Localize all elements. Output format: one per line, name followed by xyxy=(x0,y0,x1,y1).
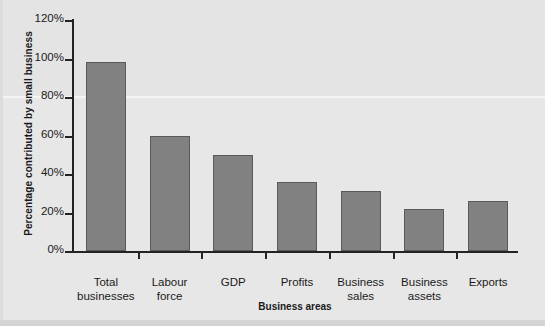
y-tick-mark xyxy=(65,59,74,61)
y-tick-mark xyxy=(65,251,74,253)
y-tick-mark xyxy=(65,213,74,215)
x-axis-category-label: Profits xyxy=(265,275,329,289)
x-axis-category-label: Business sales xyxy=(329,275,393,303)
y-tick-mark xyxy=(65,97,74,99)
x-tick-mark xyxy=(393,251,395,259)
x-axis-category-label: Exports xyxy=(456,275,520,289)
y-tick-label: 20% xyxy=(41,205,64,217)
bar xyxy=(468,201,508,251)
x-axis-category-label: Business assets xyxy=(393,275,457,303)
x-tick-mark xyxy=(265,251,267,259)
y-tick-label: 100% xyxy=(35,51,64,63)
x-tick-mark xyxy=(456,251,458,259)
chart-screenshot: Percentage contributed by small business… xyxy=(0,0,545,326)
x-axis-category-label: Total businesses xyxy=(74,275,138,303)
x-axis-category-label: Labour force xyxy=(138,275,202,303)
bar xyxy=(341,191,381,251)
x-axis-category-label: GDP xyxy=(201,275,265,289)
y-tick-mark xyxy=(65,136,74,138)
x-tick-mark xyxy=(138,251,140,259)
y-tick-label: 40% xyxy=(41,166,64,178)
page-bottom-edge xyxy=(0,320,545,326)
bar xyxy=(86,62,126,251)
y-axis-title: Percentage contributed by small business xyxy=(23,14,34,254)
bar xyxy=(277,182,317,251)
y-tick-label: 120% xyxy=(35,12,64,24)
x-axis-title: Business areas xyxy=(72,301,518,312)
y-tick-label: 80% xyxy=(41,89,64,101)
x-tick-mark xyxy=(201,251,203,259)
plot-area: 0%20%40%60%80%100%120% Total businessesL… xyxy=(72,19,518,252)
y-tick-mark xyxy=(65,20,74,22)
y-tick-mark xyxy=(65,174,74,176)
bar xyxy=(404,209,444,251)
x-tick-mark xyxy=(329,251,331,259)
y-tick-label: 0% xyxy=(47,243,64,255)
bar xyxy=(213,155,253,251)
page-left-edge xyxy=(0,0,3,326)
y-tick-label: 60% xyxy=(41,128,64,140)
bar xyxy=(150,136,190,252)
